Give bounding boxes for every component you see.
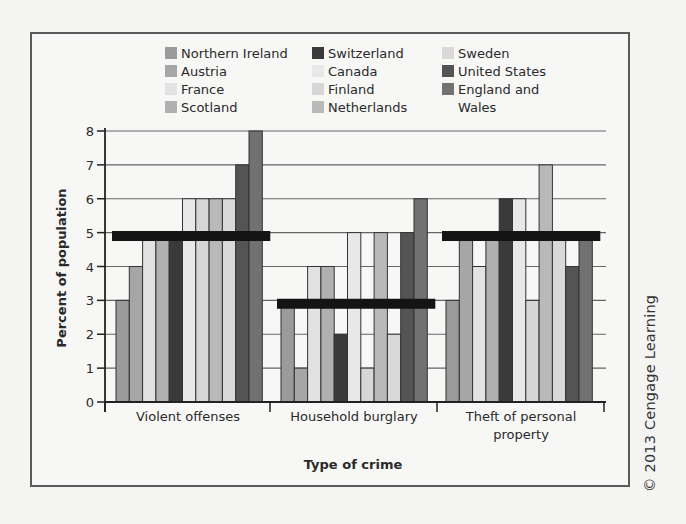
- legend-label: Austria: [181, 64, 227, 79]
- bar: [348, 233, 361, 402]
- bar: [486, 233, 499, 402]
- bar: [579, 233, 592, 402]
- bar: [499, 199, 512, 402]
- legend-swatch: [165, 47, 177, 59]
- y-tick-label: 8: [86, 124, 94, 139]
- average-line: [112, 231, 270, 241]
- category-label: Household burglary: [290, 409, 418, 424]
- y-tick-label: 0: [86, 395, 94, 410]
- bar-chart: 012345678Violent offensesHousehold burgl…: [0, 0, 686, 524]
- bar: [236, 165, 249, 402]
- legend-swatch: [312, 83, 324, 95]
- bar: [361, 368, 374, 402]
- bar: [401, 233, 414, 402]
- copyright-credit: © 2013 Cengage Learning: [642, 295, 658, 492]
- category-label: property: [493, 427, 549, 442]
- category-label: Violent offenses: [136, 409, 240, 424]
- bar: [294, 368, 307, 402]
- bar: [249, 131, 262, 402]
- y-tick-label: 5: [86, 226, 94, 241]
- bar: [513, 199, 526, 402]
- y-axis-title: Percent of population: [54, 188, 69, 347]
- x-axis-title: Type of crime: [304, 457, 403, 472]
- bar: [209, 199, 222, 402]
- legend-label: France: [181, 82, 224, 97]
- legend-label: Canada: [328, 64, 377, 79]
- average-line: [442, 231, 600, 241]
- bar: [321, 267, 334, 403]
- legend-swatch: [165, 83, 177, 95]
- legend-label: Wales: [458, 100, 497, 115]
- legend-swatch: [312, 101, 324, 113]
- bar: [473, 267, 486, 403]
- bar: [539, 165, 552, 402]
- bar: [183, 199, 196, 402]
- bar: [387, 334, 400, 402]
- bar: [308, 267, 321, 403]
- bar: [526, 300, 539, 402]
- legend-swatch: [442, 47, 454, 59]
- legend-label: Netherlands: [328, 100, 407, 115]
- y-tick-label: 1: [86, 361, 94, 376]
- legend-swatch: [312, 65, 324, 77]
- bar: [222, 199, 235, 402]
- legend-label: Northern Ireland: [181, 46, 288, 61]
- y-tick-label: 4: [86, 260, 94, 275]
- legend-label: Sweden: [458, 46, 509, 61]
- legend-label: Switzerland: [328, 46, 404, 61]
- legend-swatch: [312, 47, 324, 59]
- bar: [446, 300, 459, 402]
- y-tick-label: 6: [86, 192, 94, 207]
- y-tick-label: 2: [86, 327, 94, 342]
- category-label: Theft of personal: [465, 409, 577, 424]
- bar: [129, 267, 142, 403]
- average-line: [277, 299, 435, 309]
- legend-swatch: [165, 65, 177, 77]
- bar: [374, 233, 387, 402]
- legend-label: Scotland: [181, 100, 238, 115]
- bar: [143, 233, 156, 402]
- bar: [281, 300, 294, 402]
- y-tick-label: 3: [86, 293, 94, 308]
- bar: [116, 300, 129, 402]
- bar: [459, 233, 472, 402]
- bar: [169, 233, 182, 402]
- bar: [156, 233, 169, 402]
- bar: [334, 334, 347, 402]
- legend-swatch: [442, 83, 454, 95]
- legend-label: England and: [458, 82, 539, 97]
- legend-label: United States: [458, 64, 546, 79]
- y-tick-label: 7: [86, 158, 94, 173]
- bar: [552, 233, 565, 402]
- legend-swatch: [442, 65, 454, 77]
- bar: [196, 199, 209, 402]
- legend-swatch: [165, 101, 177, 113]
- legend-label: Finland: [328, 82, 374, 97]
- bar: [566, 267, 579, 403]
